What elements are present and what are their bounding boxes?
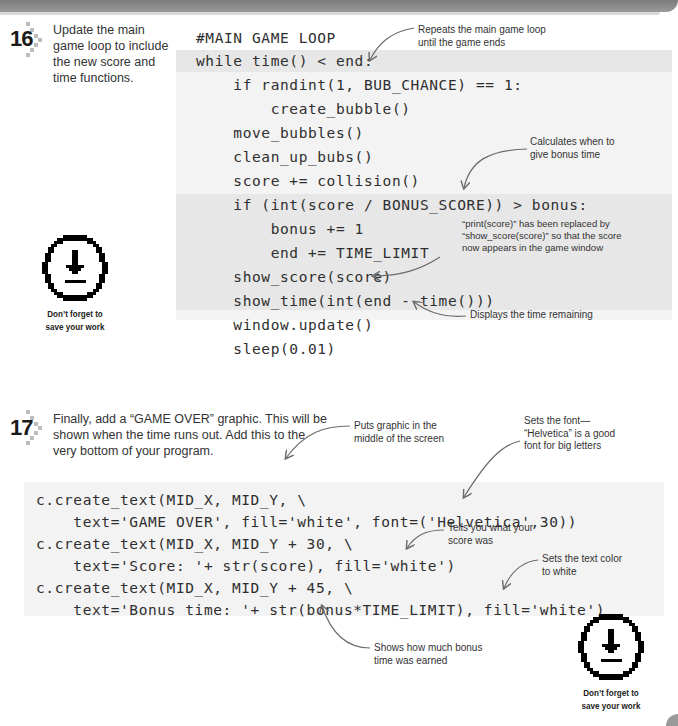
code-line: if randint(1, BUB_CHANCE) == 1: <box>196 73 523 97</box>
code-line: text='Bonus time: '+ str(bonus*TIME_LIMI… <box>36 598 605 622</box>
annotation-line: Repeats the main game loop <box>418 24 546 37</box>
code-line: clean_up_bubs() <box>196 145 373 169</box>
code-line: score += collision() <box>196 169 420 193</box>
annotation-line: “Helvetica” is a good <box>524 428 615 441</box>
caption-line: Don’t forget to <box>564 686 658 699</box>
instruction-line: game loop to include <box>53 38 168 54</box>
code-line: while time() < end: <box>196 49 373 73</box>
annotation-bonus-time: Shows how much bonus time was earned <box>374 642 482 667</box>
annotation-show-time: Displays the time remaining <box>470 309 593 322</box>
annotation-line: until the game ends <box>418 37 546 50</box>
save-download-icon <box>42 235 108 301</box>
annotation-line: score was <box>448 535 533 548</box>
code-line: bonus += 1 <box>196 217 364 241</box>
annotation-line: Calculates when to <box>530 136 615 149</box>
annotation-line: time was earned <box>374 655 482 668</box>
save-download-icon <box>578 614 644 680</box>
caption-line: Don’t forget to <box>28 307 122 320</box>
step-number: 17 <box>10 415 32 441</box>
instruction-line: Finally, add a “GAME OVER” graphic. This… <box>53 411 327 427</box>
save-reminder: Don’t forget to save your work <box>556 614 666 712</box>
save-caption: Don’t forget to save your work <box>564 686 658 712</box>
annotation-line: Sets the font— <box>524 415 615 428</box>
annotation-loop: Repeats the main game loop until the gam… <box>418 24 546 49</box>
annotation-middle: Puts graphic in the middle of the screen <box>354 420 444 445</box>
page-header-shadow <box>0 12 660 15</box>
instruction-line: the new score and <box>53 54 168 70</box>
code-line: sleep(0.01) <box>196 337 336 361</box>
instruction-line: Update the main <box>53 22 168 38</box>
page-header-bar <box>0 0 678 12</box>
step-instruction: Update the main game loop to include the… <box>53 22 168 86</box>
caption-line: save your work <box>28 320 122 333</box>
code-line: window.update() <box>196 313 373 337</box>
code-line: end += TIME_LIMIT <box>196 241 429 265</box>
save-reminder: Don’t forget to save your work <box>20 235 130 333</box>
code-line: #MAIN GAME LOOP <box>196 26 336 50</box>
annotation-score: Tells you what your score was <box>448 522 533 547</box>
annotation-line: Sets the text color <box>542 553 622 566</box>
annotation-line: give bonus time <box>530 149 615 162</box>
annotation-line: “print(score)” has been replaced by <box>462 218 621 230</box>
annotation-line: Puts graphic in the <box>354 420 444 433</box>
annotation-font: Sets the font— “Helvetica” is a good fon… <box>524 415 615 453</box>
code-line: text='Score: '+ str(score), fill='white'… <box>36 554 456 578</box>
annotation-line: to white <box>542 566 622 579</box>
step-instruction: Finally, add a “GAME OVER” graphic. This… <box>53 411 327 459</box>
instruction-line: very bottom of your program. <box>53 443 327 459</box>
code-line: show_time(int(end - time())) <box>196 289 495 313</box>
annotation-line: now appears in the game window <box>462 242 621 254</box>
code-line: if (int(score / BONUS_SCORE)) > bonus: <box>196 193 588 217</box>
annotation-line: Shows how much bonus <box>374 642 482 655</box>
annotation-line: middle of the screen <box>354 433 444 446</box>
step-number: 16 <box>10 26 32 52</box>
annotation-color: Sets the text color to white <box>542 553 622 578</box>
annotation-show-score: “print(score)” has been replaced by “sho… <box>462 218 621 254</box>
instruction-line: shown when the time runs out. Add this t… <box>53 427 327 443</box>
code-line: move_bubbles() <box>196 121 364 145</box>
annotation-line: “show_score(score)” so that the score <box>462 230 621 242</box>
code-line: show_score(score) <box>196 265 392 289</box>
instruction-line: time functions. <box>53 70 168 86</box>
code-line: create_bubble() <box>196 97 411 121</box>
annotation-bonus: Calculates when to give bonus time <box>530 136 615 161</box>
save-caption: Don’t forget to save your work <box>28 307 122 333</box>
annotation-line: Tells you what your <box>448 522 533 535</box>
code-line: c.create_text(MID_X, MID_Y + 30, \ <box>36 532 353 556</box>
annotation-line: Displays the time remaining <box>470 309 593 322</box>
annotation-line: font for big letters <box>524 440 615 453</box>
code-line: c.create_text(MID_X, MID_Y + 45, \ <box>36 576 353 600</box>
page-corner-tab <box>666 714 678 726</box>
code-line: c.create_text(MID_X, MID_Y, \ <box>36 488 307 512</box>
caption-line: save your work <box>564 699 658 712</box>
